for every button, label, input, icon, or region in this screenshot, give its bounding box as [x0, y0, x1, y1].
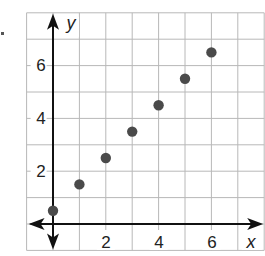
y-tick-2: 2 — [36, 162, 45, 181]
x-tick-4: 4 — [154, 233, 163, 252]
y-axis-label: y — [65, 13, 77, 33]
data-point — [74, 179, 84, 189]
x-axis-label: x — [246, 232, 257, 252]
data-point — [206, 47, 216, 57]
axes — [29, 14, 264, 250]
y-tick-6: 6 — [36, 56, 45, 75]
x-tick-2: 2 — [101, 233, 110, 252]
x-tick-6: 6 — [207, 233, 216, 252]
y-tick-4: 4 — [36, 109, 45, 128]
tick-labels: 2 4 6 2 4 6 x y — [36, 13, 256, 252]
data-point — [101, 153, 111, 163]
scatter-chart: 2 4 6 2 4 6 x y — [0, 0, 265, 256]
data-point — [48, 206, 58, 216]
grid — [27, 13, 265, 251]
data-point — [180, 74, 190, 84]
data-point — [127, 126, 137, 136]
data-point — [153, 100, 163, 110]
